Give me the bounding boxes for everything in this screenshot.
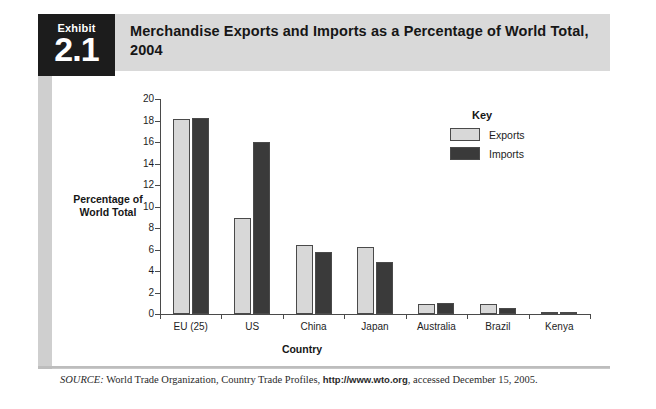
- category-label: Australia: [406, 321, 467, 332]
- x-tick: [160, 314, 161, 319]
- legend-swatch-exports: [450, 128, 480, 141]
- bar-exports: [480, 304, 497, 314]
- bar-exports: [418, 304, 435, 314]
- y-tick-label: 18: [130, 116, 154, 126]
- exhibit-number-label: 2.1: [38, 32, 115, 66]
- y-tick-label: 14: [130, 159, 154, 169]
- bar-exports: [357, 247, 374, 314]
- x-tick: [406, 314, 407, 319]
- source-body: World Trade Organization, Country Trade …: [104, 374, 323, 385]
- exhibit-page: Exhibit 2.1 Merchandise Exports and Impo…: [0, 0, 656, 409]
- source-note: SOURCE: World Trade Organization, Countr…: [60, 374, 605, 385]
- x-tick: [344, 314, 345, 319]
- x-tick: [590, 314, 591, 319]
- bar-imports: [315, 252, 332, 314]
- bar-exports: [296, 245, 313, 314]
- source-url[interactable]: http://www.wto.org: [323, 374, 408, 385]
- legend-title: Key: [472, 109, 585, 121]
- y-tick-label: 6: [130, 245, 154, 255]
- bar-exports: [541, 312, 558, 314]
- category-label: Brazil: [467, 321, 528, 332]
- legend-item: Imports: [450, 147, 585, 160]
- bar-imports: [253, 142, 270, 314]
- y-tick-label: 0: [130, 309, 154, 319]
- bar-imports: [560, 312, 577, 314]
- bar-imports: [192, 118, 209, 314]
- source-prefix: SOURCE:: [60, 374, 104, 385]
- category-label: Japan: [344, 321, 405, 332]
- x-tick: [283, 314, 284, 319]
- y-tick-label: 12: [130, 180, 154, 190]
- exhibit-number-block: Exhibit 2.1: [38, 14, 115, 76]
- legend-item: Exports: [450, 128, 585, 141]
- x-tick: [529, 314, 530, 319]
- legend-label: Imports: [489, 148, 524, 160]
- y-tick-label: 2: [130, 288, 154, 298]
- source-divider: [52, 368, 610, 369]
- legend-swatch-imports: [450, 147, 480, 160]
- x-axis-label: Country: [212, 343, 392, 355]
- y-tick-label: 4: [130, 266, 154, 276]
- bar-exports: [234, 218, 251, 314]
- category-label: Kenya: [529, 321, 590, 332]
- bar-imports: [437, 303, 454, 314]
- y-tick-label: 20: [130, 94, 154, 104]
- category-label: China: [283, 321, 344, 332]
- y-tick-label: 16: [130, 137, 154, 147]
- bar-exports: [173, 119, 190, 314]
- bar-imports: [499, 308, 516, 314]
- exhibit-card: Exhibit 2.1 Merchandise Exports and Impo…: [52, 14, 610, 366]
- x-tick: [221, 314, 222, 319]
- y-tick-label: 8: [130, 223, 154, 233]
- source-suffix: , accessed December 15, 2005.: [408, 374, 538, 385]
- category-label: US: [221, 321, 282, 332]
- exhibit-title: Merchandise Exports and Imports as a Per…: [130, 22, 600, 60]
- y-tick-label: 10: [130, 202, 154, 212]
- x-axis-line: [160, 314, 590, 315]
- category-label: EU (25): [160, 321, 221, 332]
- chart-legend: Key ExportsImports: [450, 109, 585, 166]
- legend-label: Exports: [489, 129, 525, 141]
- bar-imports: [376, 262, 393, 314]
- x-tick: [467, 314, 468, 319]
- chart-area: Percentage of World Total Country 024681…: [52, 71, 610, 366]
